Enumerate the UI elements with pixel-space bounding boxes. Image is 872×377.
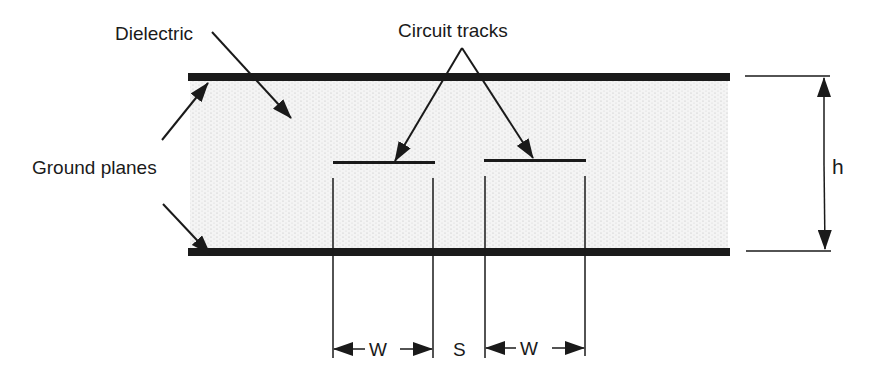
width-label-left: W — [369, 340, 387, 359]
bottom-ground-plane — [188, 248, 730, 256]
dielectric-label: Dielectric — [115, 24, 193, 43]
ground-planes-label: Ground planes — [32, 158, 157, 177]
width-label-right: W — [520, 339, 538, 358]
right-track — [484, 159, 586, 162]
stripline-diagram — [0, 0, 872, 377]
dielectric — [190, 80, 728, 250]
height-dimension — [745, 76, 831, 251]
circuit-tracks-label: Circuit tracks — [398, 21, 508, 40]
left-track — [333, 161, 435, 164]
top-ground-plane — [188, 73, 730, 81]
height-label: h — [832, 156, 844, 177]
spacing-label: S — [453, 340, 466, 359]
